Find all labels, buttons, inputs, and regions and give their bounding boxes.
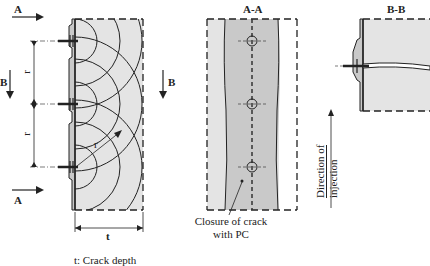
section-b-label-left: B xyxy=(0,76,7,88)
spacing-label-1: r xyxy=(20,70,32,74)
section-b-label-right: B xyxy=(168,76,175,88)
section-aa-view xyxy=(207,19,297,215)
section-bb-title: B-B xyxy=(387,3,405,15)
side-view xyxy=(6,0,167,234)
radius-label: r xyxy=(94,138,98,150)
spacing-label-2: r xyxy=(20,132,32,136)
legend-crack-depth: t: Crack depth xyxy=(74,254,136,266)
direction-annotation: Direction of injection xyxy=(314,145,339,198)
section-aa-title: A-A xyxy=(243,3,263,15)
section-a-label-bottom: A xyxy=(14,194,22,206)
section-bb-view xyxy=(335,19,430,111)
depth-label: t xyxy=(106,230,110,242)
section-a-label-top: A xyxy=(14,3,22,15)
closure-annotation: Closure of crack with PC xyxy=(186,215,276,241)
